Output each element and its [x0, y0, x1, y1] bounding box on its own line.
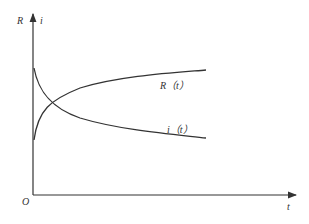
origin-label: O [22, 196, 29, 207]
curve-label-r-t: R（t） [160, 77, 189, 92]
y-axis-label-i: i [40, 15, 43, 26]
x-axis-label-t: t [287, 201, 290, 212]
y-axis-label-r: R [17, 15, 23, 26]
curve-label-i-t: i（t） [167, 121, 193, 136]
diagram-canvas [0, 0, 309, 224]
